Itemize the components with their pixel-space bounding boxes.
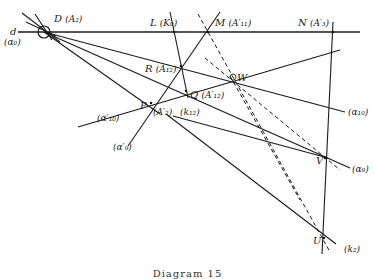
label-M: M (A′₁₁) (215, 18, 251, 28)
point-N (332, 31, 335, 34)
label-Q: Q (A′₁₂) (190, 90, 224, 100)
label-V: V (316, 156, 323, 166)
line-NU (322, 22, 333, 254)
label-W: W (237, 73, 247, 83)
line-a9 (44, 32, 350, 168)
label-U: U (313, 236, 321, 246)
label-line-d: d (10, 27, 16, 37)
label-line-a10: (α₁₀) (348, 108, 368, 117)
label-L: L (K₀) (150, 18, 177, 28)
dashed-line-W (230, 76, 300, 200)
label-line-k12: (k₁₂) (180, 108, 200, 117)
line-k2 (166, 114, 336, 244)
point-M (207, 31, 210, 34)
point-L (173, 31, 176, 34)
figure-caption: Diagram 15 (0, 268, 375, 279)
label-line-k2: (k₂) (344, 245, 360, 254)
label-P: P (140, 101, 147, 111)
label-line-a0: (α₀) (4, 38, 21, 47)
label-N: N (A′₃) (298, 18, 329, 28)
point-V (324, 157, 327, 160)
point-Q (185, 90, 188, 93)
label-P-alt: (A′₂) (153, 108, 172, 117)
dashed-line-WV (205, 58, 340, 170)
label-line-a9-prime: (α′₉) (113, 143, 132, 152)
point-R (180, 65, 183, 68)
label-D: D (A₂) (54, 14, 82, 24)
label-R: R (A₁₂) (145, 64, 176, 74)
dashed-line-MU (198, 14, 330, 252)
point-P (150, 102, 153, 105)
label-line-a10-prime: (α′₁₀) (97, 114, 119, 123)
point-U (323, 237, 326, 240)
line-a10 (44, 32, 345, 112)
label-line-a9: (α₉) (352, 165, 369, 174)
